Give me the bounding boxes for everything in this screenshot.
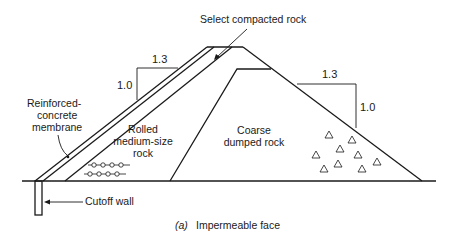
arrowhead-cutoff-wall bbox=[44, 200, 50, 205]
svg-text:Reinforced-: Reinforced- bbox=[27, 97, 82, 109]
cutoff-wall bbox=[35, 181, 42, 215]
downstream-slope-indicator: 1.3 1.0 bbox=[297, 68, 375, 128]
figure-caption: Impermeable face bbox=[196, 219, 280, 231]
label-reinforced-concrete-membrane: Reinforced- concrete membrane bbox=[27, 97, 82, 133]
upstream-slope-vertical: 1.0 bbox=[117, 79, 132, 91]
svg-text:medium-size: medium-size bbox=[113, 135, 173, 147]
rolled-rock-symbol bbox=[84, 163, 130, 176]
svg-text:rock: rock bbox=[133, 147, 154, 159]
svg-text:Coarse: Coarse bbox=[237, 124, 271, 136]
label-select-compacted-rock: Select compacted rock bbox=[200, 13, 307, 25]
label-cutoff-wall: Cutoff wall bbox=[85, 195, 134, 207]
downstream-slope-vertical: 1.0 bbox=[360, 101, 375, 113]
rockfill-dam-cross-section: 1.3 1.0 1.3 1.0 Select compacted rock Re… bbox=[0, 0, 458, 239]
leader-membrane-dot bbox=[67, 156, 70, 159]
leader-membrane bbox=[58, 135, 68, 156]
svg-text:Rolled: Rolled bbox=[128, 123, 158, 135]
downstream-slope-horizontal: 1.3 bbox=[322, 68, 337, 80]
label-coarse-dumped-rock: Coarse dumped rock bbox=[224, 124, 285, 148]
svg-text:membrane: membrane bbox=[32, 121, 82, 133]
label-rolled-medium-size-rock: Rolled medium-size rock bbox=[113, 123, 173, 159]
dumped-rock-symbol bbox=[312, 131, 381, 172]
svg-text:dumped rock: dumped rock bbox=[224, 136, 285, 148]
svg-text:concrete: concrete bbox=[37, 109, 77, 121]
figure-caption-prefix: (a) bbox=[175, 219, 188, 231]
upstream-slope-horizontal: 1.3 bbox=[152, 53, 167, 65]
leader-select-compacted-rock bbox=[217, 29, 247, 57]
